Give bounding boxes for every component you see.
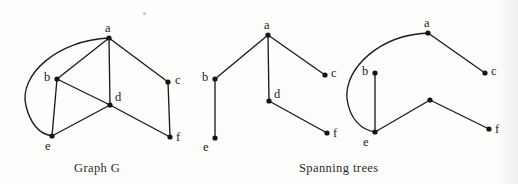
vertex-label-f: f bbox=[176, 131, 180, 144]
edge-a-c bbox=[109, 38, 168, 82]
edge-a-d bbox=[268, 35, 269, 101]
panel-graph-g bbox=[25, 35, 173, 139]
vertex-d bbox=[427, 97, 432, 102]
vertex-f bbox=[324, 130, 329, 135]
vertex-e bbox=[372, 129, 377, 134]
edge-a-e bbox=[347, 33, 428, 132]
vertex-d bbox=[266, 98, 271, 103]
vertex-c bbox=[322, 72, 327, 77]
edge-a-c bbox=[268, 35, 325, 75]
vertex-label-c: c bbox=[175, 74, 181, 87]
vertex-label-b: b bbox=[202, 71, 208, 84]
vertex-label-a: a bbox=[105, 22, 111, 35]
vertex-label-c: c bbox=[331, 67, 337, 80]
edge-d-f bbox=[269, 101, 327, 133]
vertex-label-f: f bbox=[333, 127, 337, 140]
vertex-label-a: a bbox=[264, 19, 270, 32]
vertex-c bbox=[165, 79, 170, 84]
edge-a-d bbox=[109, 38, 110, 105]
edge-d-f bbox=[430, 100, 489, 129]
vertex-label-c: c bbox=[491, 65, 497, 78]
vertex-a bbox=[106, 35, 111, 40]
edge-d-f bbox=[110, 105, 170, 137]
spanning-trees-figure: abcdefabcdefabcef Graph G Spanning trees bbox=[0, 0, 518, 184]
vertex-label-a: a bbox=[424, 17, 430, 30]
vertex-d bbox=[107, 102, 112, 107]
vertex-a bbox=[265, 32, 270, 37]
caption-graph-g: Graph G bbox=[74, 161, 120, 176]
graph-diagram-canvas bbox=[0, 0, 518, 184]
edge-a-e bbox=[25, 38, 109, 136]
vertex-label-d: d bbox=[115, 91, 121, 104]
vertex-b bbox=[54, 76, 59, 81]
vertex-label-e: e bbox=[45, 140, 51, 153]
vertex-label-d: d bbox=[274, 88, 280, 101]
edge-a-c bbox=[428, 33, 485, 73]
edge-c-f bbox=[168, 82, 170, 137]
edge-a-b bbox=[57, 38, 109, 79]
vertex-label-f: f bbox=[495, 123, 499, 136]
vertex-e bbox=[212, 135, 217, 140]
vertex-f bbox=[486, 126, 491, 131]
panel-spanning-tree-2 bbox=[347, 30, 492, 134]
caption-spanning-trees: Spanning trees bbox=[299, 161, 379, 176]
edge-b-d bbox=[57, 79, 110, 105]
edge-e-d bbox=[375, 100, 430, 132]
edge-a-b bbox=[215, 35, 268, 79]
vertex-label-e: e bbox=[203, 141, 209, 154]
edge-b-e bbox=[52, 79, 57, 136]
vertex-f bbox=[167, 134, 172, 139]
panel-spanning-tree-1 bbox=[212, 32, 329, 140]
vertex-b bbox=[212, 76, 217, 81]
vertex-c bbox=[482, 70, 487, 75]
vertex-label-b: b bbox=[362, 65, 368, 78]
edge-d-e bbox=[52, 105, 110, 136]
vertex-label-e: e bbox=[363, 136, 369, 149]
vertex-a bbox=[425, 30, 430, 35]
vertex-e bbox=[49, 133, 54, 138]
vertex-label-b: b bbox=[44, 71, 50, 84]
vertex-b bbox=[372, 70, 377, 75]
